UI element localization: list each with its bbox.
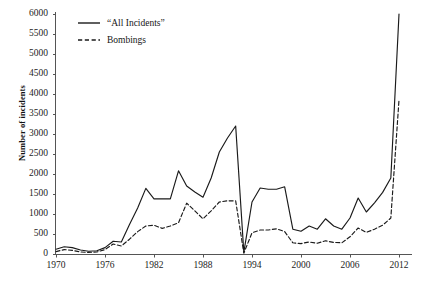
- data-series-group: [56, 14, 399, 253]
- y-tick-label: 4500: [8, 69, 48, 79]
- axis-lines: [56, 12, 413, 255]
- chart-legend: “All Incidents” Bombings: [78, 14, 258, 48]
- y-tick-label: 4000: [8, 89, 48, 99]
- x-tick-label: 1988: [180, 261, 226, 271]
- y-tick-label: 0: [8, 249, 48, 259]
- y-tick-label: 3500: [8, 109, 48, 119]
- legend-swatch-solid: [78, 18, 100, 28]
- y-tick-label: 3000: [8, 129, 48, 139]
- x-tick-label: 1982: [131, 261, 177, 271]
- chart-figure: Number of incidents “All Incidents” Bomb…: [0, 0, 430, 281]
- x-tick-label: 1994: [229, 261, 275, 271]
- x-tick-label: 2000: [278, 261, 324, 271]
- legend-label-bombings: Bombings: [107, 35, 146, 45]
- y-tick-label: 2500: [8, 149, 48, 159]
- y-tick-label: 1500: [8, 189, 48, 199]
- y-tick-label: 5000: [8, 49, 48, 59]
- legend-item-all-incidents: “All Incidents”: [78, 14, 258, 31]
- x-tick-label: 2006: [327, 261, 373, 271]
- x-tick-label: 1970: [33, 261, 79, 271]
- x-tick-label: 1976: [82, 261, 128, 271]
- legend-swatch-dashed: [78, 35, 100, 45]
- legend-item-bombings: Bombings: [78, 31, 258, 48]
- y-tick-label: 5500: [8, 29, 48, 39]
- y-tick-label: 1000: [8, 209, 48, 219]
- series-line-all-incidents: [56, 14, 399, 252]
- y-tick-label: 500: [8, 229, 48, 239]
- x-tick-label: 2012: [376, 261, 422, 271]
- y-tick-label: 6000: [8, 9, 48, 19]
- y-tick-label: 2000: [8, 169, 48, 179]
- series-line-bombings: [56, 100, 399, 253]
- legend-label-all-incidents: “All Incidents”: [107, 18, 165, 28]
